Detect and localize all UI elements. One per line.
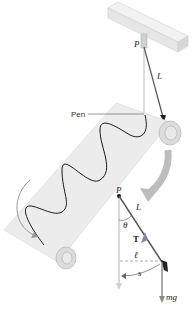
horizontal-displacement-label: ℓ bbox=[134, 250, 138, 260]
zoom-arrow-icon bbox=[150, 150, 168, 192]
pendulum-string bbox=[144, 47, 163, 117]
support-bar bbox=[108, 2, 188, 52]
free-body-diagram bbox=[116, 194, 168, 303]
pen-label: Pen bbox=[71, 110, 85, 119]
tension-label: T bbox=[133, 234, 139, 244]
pendulum-chart-recorder-diagram: Pen P L P L θ T ℓ s mg bbox=[0, 0, 192, 311]
pivot-label-fbd: P bbox=[115, 185, 122, 195]
length-label-top: L bbox=[156, 71, 162, 81]
weight-label: mg bbox=[166, 292, 177, 302]
angle-label: θ bbox=[123, 220, 128, 230]
arc-length-label: s bbox=[138, 268, 142, 278]
length-label-fbd: L bbox=[135, 202, 141, 212]
pivot-label-top: P bbox=[133, 39, 140, 49]
